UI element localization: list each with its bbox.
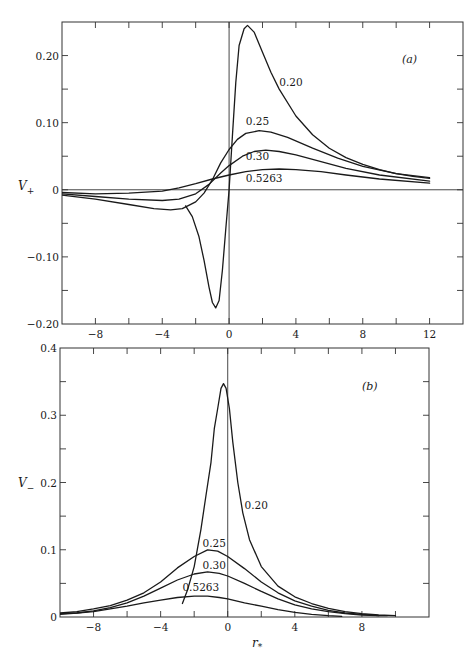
panel-a-vplus: −8−404812−0.20−0.1000.100.200.200.250.30…: [18, 22, 463, 340]
x-tick-label: 4: [293, 328, 300, 340]
y-tick-label: 0: [52, 184, 59, 196]
x-tick-label: 0: [226, 328, 233, 340]
x-tick-label: 8: [359, 621, 366, 633]
curve-label: 0.25: [203, 537, 226, 549]
y-tick-label: 0.3: [40, 409, 57, 421]
curves: [62, 25, 430, 308]
x-tick-label: −8: [86, 621, 101, 633]
y-axis-label: V−: [18, 476, 34, 493]
x-axis-label: r*: [252, 636, 263, 652]
x-tick-label: 8: [359, 328, 366, 340]
panel-b-vminus: −8−404800.10.20.30.40.200.250.300.5263(b…: [18, 342, 429, 652]
y-tick-label: 0: [50, 611, 57, 623]
x-tick-label: −4: [153, 621, 169, 633]
x-tick-label: 12: [423, 328, 436, 340]
y-tick-label: 0.1: [40, 544, 57, 556]
x-tick-label: 0: [224, 621, 231, 633]
curve-label: 0.5263: [182, 581, 219, 593]
curve-label: 0.20: [279, 76, 302, 88]
chart-svg: −8−404812−0.20−0.1000.100.200.200.250.30…: [0, 0, 476, 661]
figure: −8−404812−0.20−0.1000.100.200.200.250.30…: [0, 0, 476, 661]
curve-0-20: [186, 25, 430, 308]
curve-label: 0.20: [245, 499, 268, 511]
panel-label: (a): [402, 53, 417, 66]
curve-label: 0.30: [246, 150, 269, 162]
y-tick-label: 0.20: [36, 50, 59, 62]
x-tick-label: 4: [291, 621, 298, 633]
y-tick-label: −0.10: [27, 251, 59, 263]
x-tick-label: −8: [88, 328, 103, 340]
y-tick-label: 0.4: [40, 342, 57, 354]
curve-label: 0.30: [203, 559, 226, 571]
curve-label: 0.25: [246, 115, 269, 127]
y-tick-label: −0.20: [27, 318, 59, 330]
y-axis-label: V+: [18, 179, 34, 196]
y-tick-label: 0.2: [40, 477, 57, 489]
x-tick-label: −4: [155, 328, 171, 340]
curve-label: 0.5263: [246, 172, 283, 184]
panel-label: (b): [362, 380, 378, 393]
y-tick-label: 0.10: [36, 117, 59, 129]
